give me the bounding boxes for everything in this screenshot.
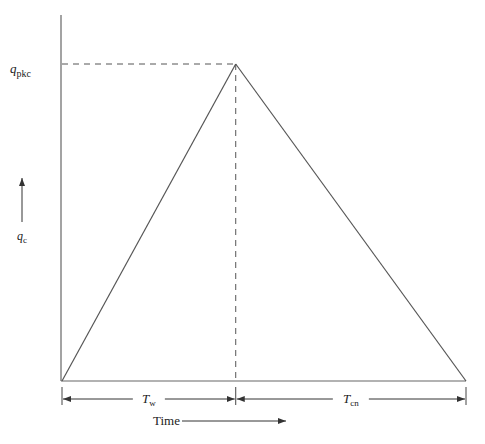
rising-limb-line bbox=[62, 64, 236, 381]
triangular-hydrograph-diagram: qpkc qc Tw Tcn Time bbox=[0, 0, 485, 444]
y-axis-label: qc bbox=[17, 229, 27, 245]
tw-label: Tw bbox=[142, 391, 156, 408]
x-axis-label: Time bbox=[153, 413, 180, 428]
peak-flow-label: qpkc bbox=[10, 61, 32, 79]
falling-limb-line bbox=[236, 64, 466, 381]
tcn-label: Tcn bbox=[343, 391, 359, 408]
